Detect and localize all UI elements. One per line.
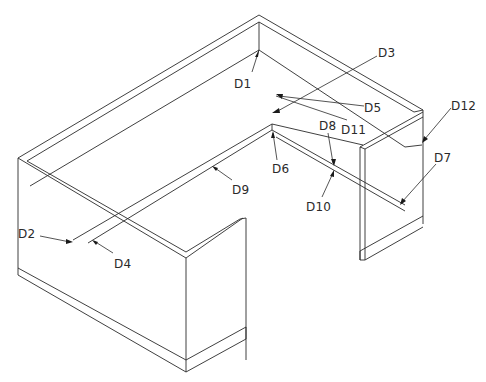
arrow-d6 <box>271 131 275 138</box>
label-d11: D11 <box>341 124 366 136</box>
arrow-d10 <box>330 170 334 177</box>
label-d2: D2 <box>18 228 35 240</box>
label-d10: D10 <box>306 201 331 213</box>
label-d6: D6 <box>272 163 289 175</box>
arrow-d9 <box>212 166 218 171</box>
left-end-panel <box>18 158 186 372</box>
label-d8: D8 <box>319 120 336 132</box>
label-d3: D3 <box>378 47 395 59</box>
label-d1: D1 <box>234 78 251 90</box>
arrow-d4 <box>92 240 98 245</box>
label-d5: D5 <box>364 102 381 114</box>
label-d7: D7 <box>434 152 451 164</box>
label-d12: D12 <box>451 100 476 112</box>
label-d4: D4 <box>114 258 131 270</box>
label-d9: D9 <box>232 184 249 196</box>
front-left-panel <box>186 218 246 372</box>
arrow-d2 <box>66 239 73 244</box>
work-surface <box>18 124 405 258</box>
arrow-d3 <box>272 108 280 113</box>
